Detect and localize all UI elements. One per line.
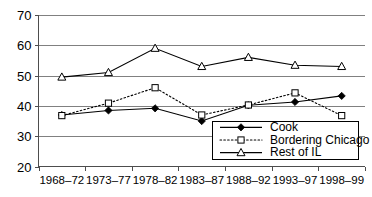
y-tick-label: 70 (17, 8, 31, 23)
data-point-marker-triangle (104, 68, 112, 75)
data-point-marker-square (199, 112, 205, 118)
line-chart: 203040506070 1968–721973–771978–821983–8… (0, 0, 372, 197)
x-tick-label: 1988–92 (226, 174, 271, 186)
series-bordering-chicago (59, 85, 345, 119)
y-tick-label: 20 (17, 160, 31, 175)
legend-label: Rest of IL (270, 145, 322, 159)
y-tick-label: 30 (17, 129, 31, 144)
legend-marker-square (238, 137, 244, 143)
data-point-marker-diamond (152, 105, 159, 112)
y-axis-tick-labels: 203040506070 (17, 8, 31, 175)
data-point-marker-diamond (105, 107, 112, 114)
y-tick-label: 40 (17, 99, 31, 114)
x-axis-tick-labels: 1968–721973–771978–821983–871988–921993–… (39, 174, 364, 186)
data-point-marker-square (339, 112, 345, 118)
data-series (58, 44, 346, 125)
x-axis-ticks (40, 167, 366, 171)
x-axis (38, 167, 366, 171)
data-point-marker-square (245, 102, 251, 108)
x-tick-label: 1993–97 (273, 174, 318, 186)
chart-legend: CookBordering ChicagoRest of IL (213, 120, 370, 159)
x-tick-label: 1978–82 (133, 174, 178, 186)
series-cook (58, 92, 345, 124)
x-tick-label: 1983–87 (179, 174, 224, 186)
data-point-marker-square (292, 90, 298, 96)
data-point-marker-square (105, 100, 111, 106)
data-point-marker-diamond (338, 92, 345, 99)
data-point-marker-square (59, 112, 65, 118)
y-tick-label: 50 (17, 69, 31, 84)
y-tick-label: 60 (17, 38, 31, 53)
series-rest-of-il (58, 44, 346, 80)
data-point-marker-square (152, 85, 158, 91)
x-tick-label: 1998–99 (319, 174, 364, 186)
x-tick-label: 1968–72 (39, 174, 84, 186)
chart-canvas: 203040506070 1968–721973–771978–821983–8… (0, 0, 372, 197)
data-point-marker-diamond (291, 98, 298, 105)
x-tick-label: 1973–77 (86, 174, 131, 186)
data-point-marker-triangle (244, 53, 252, 60)
y-axis (35, 15, 39, 168)
